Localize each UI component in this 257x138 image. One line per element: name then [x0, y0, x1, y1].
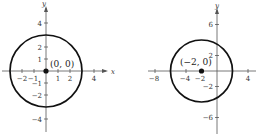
x-tick-label: −4 — [180, 75, 191, 83]
x-axis-arrow-icon — [102, 69, 108, 73]
center-point-label: (−2, 0) — [180, 57, 212, 67]
y-tick-label: 1 — [38, 56, 42, 64]
y-tick-label: −4 — [32, 116, 43, 124]
x-tick-label: −2 — [17, 75, 27, 83]
y-tick-label: −1 — [32, 80, 42, 88]
center-point — [199, 68, 204, 73]
y-axis-label: y — [214, 2, 220, 10]
center-point-label: (0, 0) — [50, 59, 74, 69]
x-tick-label: 2 — [68, 75, 72, 83]
graph-2: −8 −4 −2 4 6 2 −2 −6 y (−2, 0) — [148, 2, 256, 134]
y-tick-label: 6 — [209, 21, 214, 29]
y-tick-label: −6 — [203, 114, 214, 122]
y-tick-label: −2 — [32, 92, 42, 100]
x-axis-label: x — [111, 68, 115, 76]
y-tick-label: 4 — [38, 20, 43, 28]
graph-1: −2 −1 1 2 4 4 2 1 −1 −2 −4 x y (0, 0) — [2, 0, 115, 132]
x-tick-label: 1 — [56, 75, 60, 83]
x-tick-label: −8 — [149, 75, 159, 83]
x-tick-label: 4 — [246, 75, 251, 83]
y-tick-label: −2 — [203, 83, 213, 91]
center-point — [43, 68, 48, 73]
x-tick-label: −2 — [195, 75, 205, 83]
figure: −2 −1 1 2 4 4 2 1 −1 −2 −4 x y (0, 0) — [0, 0, 257, 138]
y-tick-label: 2 — [38, 44, 42, 52]
x-tick-label: 4 — [92, 75, 97, 83]
